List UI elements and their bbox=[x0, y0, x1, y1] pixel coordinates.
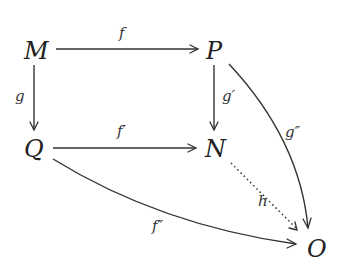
node-Q: Q bbox=[24, 135, 44, 163]
arrow-f bbox=[56, 45, 198, 53]
label-f: f bbox=[118, 24, 127, 42]
arrow-g bbox=[30, 65, 38, 130]
label-f-double-prime: f″ bbox=[151, 217, 164, 235]
label-g-double-prime: g″ bbox=[285, 123, 301, 141]
label-f-prime: f′ bbox=[116, 122, 127, 140]
label-g-prime: g′ bbox=[222, 87, 236, 105]
node-M: M bbox=[23, 37, 50, 65]
arrow-f-prime bbox=[53, 144, 196, 152]
arrow-g-double-prime bbox=[229, 64, 311, 228]
label-h: h bbox=[258, 192, 268, 210]
commutative-diagram: M P Q N O f g f′ g′ g″ h f″ bbox=[0, 0, 339, 269]
node-P: P bbox=[205, 37, 223, 65]
node-O: O bbox=[307, 235, 327, 263]
arrow-g-prime bbox=[210, 65, 218, 130]
label-g: g bbox=[15, 87, 25, 105]
node-N: N bbox=[204, 135, 227, 163]
